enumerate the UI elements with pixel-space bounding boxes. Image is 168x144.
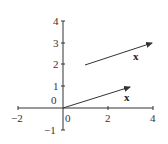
y-tick-label: 4 <box>53 15 59 27</box>
vector-x-translated <box>85 43 152 65</box>
x-tick-label: 0 <box>65 112 71 124</box>
y-tick-label: −1 <box>44 124 56 136</box>
y-tick-label: 2 <box>53 58 59 70</box>
y-tick-label: 3 <box>53 37 59 49</box>
vector-diagram: −2 0 2 4 −1 0 1 2 3 4 x x <box>0 0 168 144</box>
vector-x-origin <box>63 87 130 108</box>
y-tick-label: 1 <box>53 80 59 92</box>
x-tick-label: −2 <box>11 112 23 124</box>
x-tick-label: 4 <box>150 112 156 124</box>
x-tick-label: 2 <box>105 112 111 124</box>
vector-label: x <box>124 91 130 103</box>
vector-label: x <box>133 50 139 62</box>
y-tick-label: 0 <box>51 94 57 106</box>
